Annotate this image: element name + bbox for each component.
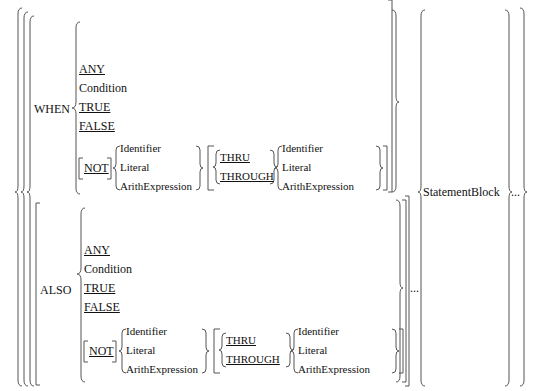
- also-range-operand-identifier: Identifier: [298, 324, 339, 338]
- also-option-condition: Condition: [84, 262, 132, 276]
- when-range-thru: THRU: [220, 150, 250, 164]
- also-range-through: THROUGH: [226, 352, 280, 366]
- when-keyword: WHEN: [34, 102, 70, 116]
- also-range-operand-literal: Literal: [298, 343, 327, 357]
- when-operand-identifier: Identifier: [120, 141, 161, 155]
- when-option-condition: Condition: [79, 81, 127, 95]
- when-operand-literal: Literal: [120, 160, 149, 174]
- when-range-operand-literal: Literal: [282, 160, 311, 174]
- also-range-thru: THRU: [226, 333, 256, 347]
- when-range-operand-identifier: Identifier: [282, 141, 323, 155]
- also-operand-arithexpression: ArithExpression: [126, 362, 198, 376]
- also-operand-literal: Literal: [126, 343, 155, 357]
- also-repeat-ellipsis: ...: [410, 281, 419, 295]
- statement-repeat-ellipsis: ...: [511, 185, 520, 199]
- when-option-true: TRUE: [79, 100, 110, 114]
- when-option-any: ANY: [79, 62, 105, 76]
- also-operand-identifier: Identifier: [126, 324, 167, 338]
- when-operand-arithexpression: ArithExpression: [120, 179, 192, 193]
- also-option-any: ANY: [84, 243, 110, 257]
- also-option-false: FALSE: [84, 300, 120, 314]
- when-range-operand-arithexpression: ArithExpression: [282, 179, 354, 193]
- also-range-operand-arithexpression: ArithExpression: [298, 362, 370, 376]
- when-option-false: FALSE: [79, 119, 115, 133]
- also-not-keyword: NOT: [89, 344, 114, 358]
- statement-block: StatementBlock: [423, 185, 500, 199]
- when-range-through: THROUGH: [220, 169, 274, 183]
- when-not-keyword: NOT: [84, 161, 109, 175]
- also-keyword: ALSO: [40, 283, 71, 297]
- also-option-true: TRUE: [84, 281, 115, 295]
